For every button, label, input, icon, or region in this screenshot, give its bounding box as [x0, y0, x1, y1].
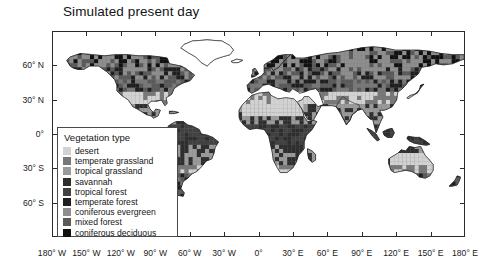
vegetation-cell — [94, 100, 98, 104]
vegetation-cell — [263, 88, 267, 92]
vegetation-cell — [382, 71, 386, 75]
vegetation-cell — [226, 133, 230, 137]
vegetation-cell — [394, 141, 398, 145]
vegetation-cell — [111, 92, 115, 96]
vegetation-cell — [337, 43, 341, 47]
vegetation-cell — [316, 39, 320, 43]
vegetation-cell — [201, 92, 205, 96]
x-axis-tick-label: 60° E — [317, 248, 338, 258]
vegetation-cell — [312, 190, 316, 194]
vegetation-cell — [94, 108, 98, 112]
vegetation-cell — [238, 43, 242, 47]
vegetation-cell — [316, 161, 320, 165]
vegetation-cell — [254, 96, 258, 100]
vegetation-cell — [365, 137, 369, 141]
vegetation-cell — [193, 133, 197, 137]
vegetation-cell — [185, 169, 189, 173]
vegetation-cell — [222, 133, 226, 137]
vegetation-cell — [189, 84, 193, 88]
vegetation-cell — [328, 92, 332, 96]
vegetation-cell — [275, 186, 279, 190]
vegetation-cell — [246, 157, 250, 161]
vegetation-cell — [185, 59, 189, 63]
vegetation-cell — [185, 186, 189, 190]
vegetation-cell — [439, 92, 443, 96]
vegetation-cell — [275, 80, 279, 84]
vegetation-cell — [402, 190, 406, 194]
x-axis-tick-label: 180° E — [452, 248, 478, 258]
vegetation-cell — [369, 112, 373, 116]
vegetation-cell — [300, 194, 304, 198]
vegetation-cell — [427, 145, 431, 149]
vegetation-cell — [213, 120, 217, 124]
vegetation-cell — [242, 63, 246, 67]
vegetation-cell — [193, 92, 197, 96]
vegetation-cell — [452, 137, 456, 141]
vegetation-cell — [341, 145, 345, 149]
vegetation-cell — [275, 190, 279, 194]
vegetation-cell — [213, 141, 217, 145]
vegetation-cell — [406, 124, 410, 128]
vegetation-cell — [222, 124, 226, 128]
vegetation-cell — [246, 161, 250, 165]
vegetation-cell — [57, 71, 61, 75]
vegetation-cell — [435, 47, 439, 51]
vegetation-cell — [341, 157, 345, 161]
vegetation-cell — [382, 145, 386, 149]
vegetation-cell — [328, 96, 332, 100]
vegetation-cell — [271, 124, 275, 128]
vegetation-cell — [304, 47, 308, 51]
vegetation-cell — [115, 47, 119, 51]
vegetation-cell — [164, 88, 168, 92]
vegetation-cell — [300, 145, 304, 149]
vegetation-cell — [222, 161, 226, 165]
vegetation-cell — [427, 55, 431, 59]
vegetation-cell — [230, 169, 234, 173]
vegetation-cell — [254, 157, 258, 161]
vegetation-cell — [106, 120, 110, 124]
vegetation-cell — [275, 120, 279, 124]
vegetation-cell — [259, 161, 263, 165]
vegetation-cell — [246, 47, 250, 51]
vegetation-cell — [332, 120, 336, 124]
vegetation-cell — [406, 190, 410, 194]
vegetation-cell — [300, 39, 304, 43]
vegetation-cell — [448, 116, 452, 120]
vegetation-cell — [185, 145, 189, 149]
vegetation-cell — [152, 96, 156, 100]
vegetation-cell — [222, 169, 226, 173]
vegetation-cell — [86, 76, 90, 80]
vegetation-cell — [439, 194, 443, 198]
vegetation-cell — [176, 59, 180, 63]
vegetation-cell — [152, 59, 156, 63]
vegetation-cell — [320, 178, 324, 182]
vegetation-cell — [324, 145, 328, 149]
vegetation-cell — [390, 178, 394, 182]
vegetation-cell — [82, 76, 86, 80]
vegetation-cell — [123, 84, 127, 88]
vegetation-cell — [341, 190, 345, 194]
vegetation-cell — [135, 120, 139, 124]
vegetation-cell — [226, 104, 230, 108]
vegetation-cell — [135, 80, 139, 84]
vegetation-cell — [246, 194, 250, 198]
vegetation-cell — [448, 190, 452, 194]
vegetation-cell — [316, 96, 320, 100]
vegetation-cell — [90, 80, 94, 84]
vegetation-cell — [213, 186, 217, 190]
vegetation-cell — [65, 108, 69, 112]
vegetation-cell — [427, 124, 431, 128]
vegetation-cell — [419, 39, 423, 43]
vegetation-cell — [386, 198, 390, 202]
vegetation-cell — [378, 51, 382, 55]
vegetation-cell — [250, 145, 254, 149]
vegetation-cell — [242, 51, 246, 55]
vegetation-cell — [448, 120, 452, 124]
vegetation-cell — [148, 120, 152, 124]
x-tick-bottom — [327, 232, 328, 237]
vegetation-cell — [131, 92, 135, 96]
vegetation-cell — [382, 194, 386, 198]
vegetation-cell — [61, 59, 65, 63]
y-tick-right — [460, 168, 465, 169]
vegetation-cell — [390, 100, 394, 104]
